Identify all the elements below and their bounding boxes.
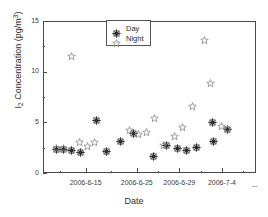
data-point-night	[67, 52, 76, 61]
y-axis-title-subscript: 2	[17, 102, 24, 106]
x-tick-minor	[60, 171, 61, 173]
y-tick-major	[43, 21, 47, 22]
y-tick-minor	[43, 148, 45, 149]
data-point-day	[102, 147, 111, 156]
x-tick-major	[222, 168, 223, 173]
y-tick-major	[43, 173, 47, 174]
data-point-night	[159, 141, 168, 150]
data-point-night	[178, 123, 187, 132]
legend-label-night: Night	[126, 34, 144, 43]
filled-star-icon	[111, 23, 123, 33]
x-tick-major	[86, 168, 87, 173]
data-point-night	[142, 128, 151, 137]
open-star-icon	[111, 33, 123, 43]
x-axis-title: Date	[0, 196, 268, 206]
x-tick-minor	[243, 171, 244, 173]
y-tick-label: 10	[27, 67, 39, 75]
data-point-day	[149, 152, 158, 161]
legend-item-night: Night	[111, 33, 144, 43]
y-tick-label: 0	[27, 169, 39, 177]
y-axis-title: I2 Concentration (pg/m3)	[13, 0, 23, 125]
legend-label-day: Day	[126, 24, 139, 33]
y-tick-minor	[43, 46, 45, 47]
axis-end-marker: --	[252, 181, 257, 190]
y-axis-title-base: I	[13, 106, 23, 109]
y-tick-label: 5	[27, 118, 39, 126]
data-point-night	[188, 102, 197, 111]
chart-legend: Day Night	[106, 20, 151, 46]
x-tick-label: 2006-6-15	[70, 179, 102, 187]
y-tick-major	[43, 72, 47, 73]
y-axis-title-superscript: 3	[12, 15, 19, 19]
data-point-day	[192, 143, 201, 152]
y-tick-major	[43, 122, 47, 123]
x-tick-label: 2006-6-25	[121, 179, 153, 187]
data-point-day	[182, 146, 191, 155]
y-axis-title-mid: Concentration (pg/m	[13, 18, 23, 102]
data-point-night	[170, 132, 179, 141]
legend-item-day: Day	[111, 23, 144, 33]
data-point-night	[223, 125, 232, 134]
x-tick-major	[137, 168, 138, 173]
data-point-night	[90, 138, 99, 147]
y-tick-minor	[43, 97, 45, 98]
chart-figure: 051015 2006-6-152006-6-252006-6-292006-7…	[0, 0, 268, 217]
data-point-night	[59, 144, 68, 153]
x-tick-minor	[158, 171, 159, 173]
data-point-day	[116, 137, 125, 146]
data-point-day	[92, 116, 101, 125]
data-point-night	[150, 114, 159, 123]
x-tick-minor	[201, 171, 202, 173]
x-tick-label: 2006-7-4	[208, 179, 236, 187]
data-point-day	[209, 137, 218, 146]
x-tick-major	[179, 168, 180, 173]
y-tick-label: 15	[27, 17, 39, 25]
x-tick-label: 2006-6-29	[163, 179, 195, 187]
data-point-night	[200, 36, 209, 45]
x-tick-minor	[111, 171, 112, 173]
data-point-night	[206, 79, 215, 88]
